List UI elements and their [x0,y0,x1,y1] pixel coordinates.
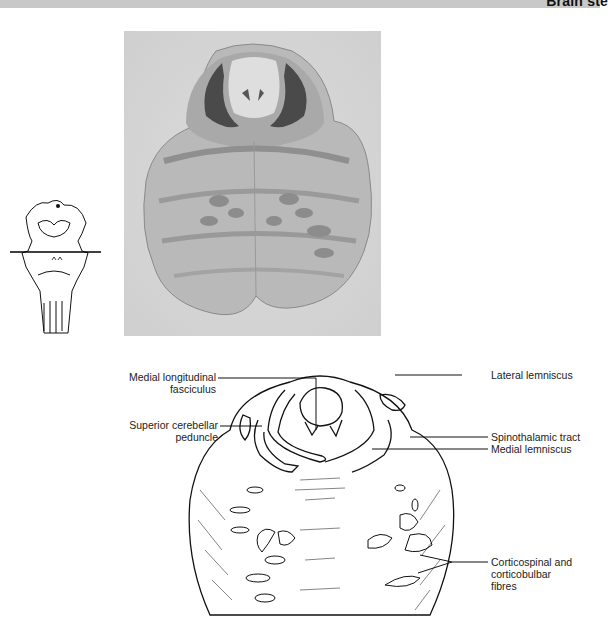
header-bar [0,0,600,8]
label-cs-line3: fibres [491,580,572,592]
label-cs-line2: corticobulbar [491,568,572,580]
stained-section-photo [124,31,381,336]
label-medial-longitudinal-fasciculus: Medial longitudinal fasciculus [90,371,216,395]
label-scp-line2: peduncle [90,431,218,443]
label-medial-lemniscus: Medial lemniscus [491,443,572,455]
label-spinothalamic-tract: Spinothalamic tract [491,431,580,443]
brainstem-orientation-diagram [8,195,103,340]
label-superior-cerebellar-peduncle: Superior cerebellar peduncle [90,419,218,443]
label-mlf-line2: fasciculus [90,383,216,395]
label-scp-line1: Superior cerebellar [90,419,218,431]
label-lateral-lemniscus: Lateral lemniscus [491,369,573,381]
label-mlf-line1: Medial longitudinal [90,371,216,383]
page-header-title: Brain ste [546,0,608,9]
label-cs-line1: Corticospinal and [491,556,572,568]
label-corticospinal-corticobulbar-fibres: Corticospinal and corticobulbar fibres [491,556,572,592]
